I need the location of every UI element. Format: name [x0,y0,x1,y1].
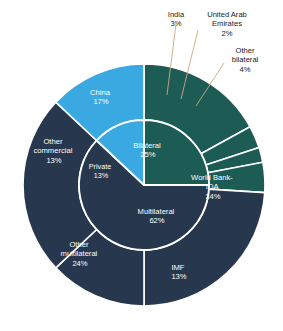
callout-other-bilateral: Other bilateral 4% [222,46,268,74]
inner-ring [79,120,209,250]
callout-india: India 3% [156,10,196,29]
callout-united-arab-emirates: United Arab Emirates 2% [199,10,255,38]
label-imf: IMF 13% [171,263,186,281]
chart-container: China 17% World Bank- IDA 24% IMF 13% Ot… [0,0,283,331]
